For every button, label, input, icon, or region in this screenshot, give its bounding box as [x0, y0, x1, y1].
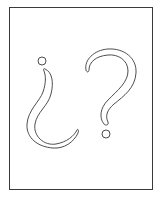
question-dot: [102, 130, 110, 138]
question-stroke: [86, 49, 136, 125]
question-mark-icon: [86, 49, 136, 138]
inverted-question-mark-icon: [27, 57, 78, 148]
inverted-question-dot: [38, 57, 46, 65]
question-marks-illustration: [0, 0, 161, 202]
inverted-question-stroke: [27, 69, 78, 148]
